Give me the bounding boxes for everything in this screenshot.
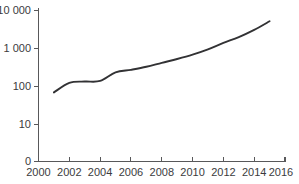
plot-background <box>0 0 299 184</box>
chart-page: 10 000 1 000 100 10 0 2000 2002 2004 200… <box>0 0 299 184</box>
x-tick-label-2006: 2006 <box>119 166 143 178</box>
x-tick-label-2008: 2008 <box>150 166 174 178</box>
x-tick-label-2002: 2002 <box>57 166 81 178</box>
y-tick-label-10: 10 <box>19 118 31 130</box>
x-tick-label-2010: 2010 <box>180 166 204 178</box>
x-tick-label-2014: 2014 <box>242 166 266 178</box>
x-tick-label-2016: 2016 <box>269 166 293 178</box>
x-tick-label-2000: 2000 <box>26 166 50 178</box>
y-tick-label-10000: 10 000 <box>0 4 31 16</box>
y-tick-label-1000: 1 000 <box>3 42 31 54</box>
x-tick-label-2004: 2004 <box>88 166 112 178</box>
y-tick-label-100: 100 <box>13 80 31 92</box>
line-chart: 10 000 1 000 100 10 0 2000 2002 2004 200… <box>0 0 299 184</box>
x-tick-label-2012: 2012 <box>211 166 235 178</box>
